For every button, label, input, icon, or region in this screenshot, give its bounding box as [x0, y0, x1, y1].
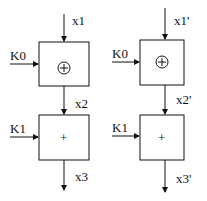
right-x2-label: x2' — [176, 92, 191, 107]
left-k1-label: K1 — [10, 121, 26, 136]
right-x1-label: x1' — [174, 13, 189, 28]
right-k0-label: K0 — [112, 46, 128, 61]
right-k1-label: K1 — [112, 120, 128, 135]
left-x3-label: x3 — [75, 169, 88, 184]
left-k0-label: K0 — [10, 48, 26, 63]
left-x2-label: x2 — [75, 96, 88, 111]
left-add-icon: + — [60, 130, 67, 145]
right-chain: x1' K0 x2' K1 + x3' — [112, 8, 191, 192]
right-x3-label: x3' — [176, 171, 191, 186]
diagram-canvas: x1 K0 x2 K1 + x3 x1' K0 x2' K1 + x3' — [0, 0, 207, 201]
right-add-icon: + — [158, 130, 165, 145]
left-x1-label: x1 — [72, 13, 85, 28]
left-chain: x1 K0 x2 K1 + x3 — [10, 13, 89, 190]
